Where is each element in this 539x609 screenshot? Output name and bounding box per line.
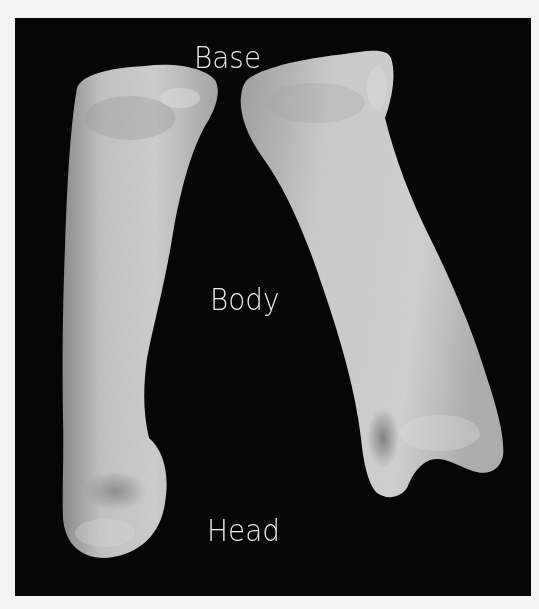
bone-photograph: Base Body Head [15,18,531,596]
label-body: Body [210,284,280,315]
right-bone [241,51,504,497]
label-base: Base [194,42,261,73]
label-head: Head [207,515,280,546]
left-bone [63,65,218,558]
